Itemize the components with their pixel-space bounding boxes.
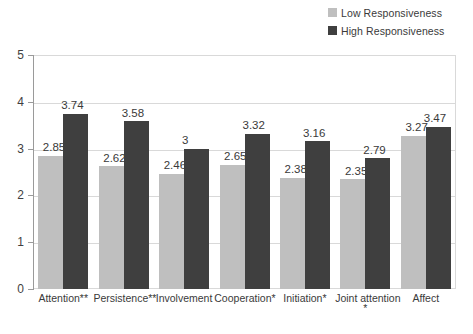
bar-low-responsiveness: 2.62 [99, 166, 124, 289]
legend-label-low-responsiveness: Low Responsiveness [341, 7, 442, 19]
bar-value-label: 3.32 [243, 120, 265, 134]
legend-label-high-responsiveness: High Responsiveness [341, 25, 444, 37]
bar-low-responsiveness: 2.35 [340, 179, 365, 289]
y-axis-tick-mark [28, 195, 33, 196]
legend-item-high-responsiveness: High Responsiveness [328, 22, 473, 39]
bar-value-label: 2.65 [224, 151, 246, 165]
bar-high-responsiveness: 3.16 [305, 141, 330, 289]
bar-high-responsiveness: 3.47 [426, 127, 451, 289]
bar-value-label: 2.35 [345, 166, 367, 180]
y-axis-tick-label: 0 [2, 282, 24, 296]
bar-group: 2.383.16 [280, 55, 330, 289]
y-axis-tick-labels: 543210 [0, 0, 24, 334]
y-axis-tick-label: 5 [2, 48, 24, 62]
bar-group: 2.853.74 [38, 55, 88, 289]
legend-swatch-low-responsiveness [328, 8, 337, 17]
bar-value-label: 2.62 [103, 153, 125, 167]
x-axis-label: Involvement [154, 292, 214, 304]
bar-chart: Low Responsiveness High Responsiveness 5… [0, 0, 473, 334]
bar-high-responsiveness: 3.74 [63, 114, 88, 289]
bar-value-label: 3.74 [61, 100, 83, 114]
chart-legend: Low Responsiveness High Responsiveness [328, 4, 473, 40]
bar-group: 2.352.79 [340, 55, 390, 289]
bar-low-responsiveness: 3.27 [401, 136, 426, 289]
bar-low-responsiveness: 2.65 [220, 165, 245, 289]
bar-value-label: 3.16 [303, 128, 325, 142]
x-axis-label: Initiation* [275, 292, 335, 304]
y-axis-tick-label: 3 [2, 142, 24, 156]
bar-low-responsiveness: 2.85 [38, 156, 63, 289]
y-axis-tick-label: 1 [2, 235, 24, 249]
bar-group: 2.463 [159, 55, 209, 289]
x-axis-label: Attention** [33, 292, 93, 304]
bar-value-label: 2.85 [43, 142, 65, 156]
bar-group: 2.653.32 [220, 55, 270, 289]
bar-group: 3.273.47 [401, 55, 451, 289]
legend-swatch-high-responsiveness [328, 26, 337, 35]
y-axis-tick-mark [28, 149, 33, 150]
bar-high-responsiveness: 3 [184, 149, 209, 289]
x-axis-label: Persistence** [93, 292, 153, 304]
x-axis-category-labels: Attention**Persistence**InvolvementCoope… [33, 292, 456, 334]
y-axis-tick-mark [28, 55, 33, 56]
bar-value-label: 3.58 [122, 108, 144, 122]
y-axis-tick-mark [28, 102, 33, 103]
bar-low-responsiveness: 2.46 [159, 174, 184, 289]
x-axis-label: Affect [396, 292, 456, 304]
y-axis-tick-mark [28, 289, 33, 290]
bar-value-label: 3.47 [424, 113, 446, 127]
x-axis-label-significance-mark: * [335, 304, 395, 312]
x-axis-label: Cooperation* [214, 292, 274, 304]
bar-value-label: 2.38 [285, 164, 307, 178]
bar-high-responsiveness: 2.79 [365, 158, 390, 289]
bar-value-label: 2.46 [164, 160, 186, 174]
x-axis-label: Joint attention* [335, 292, 395, 312]
y-axis-tick-label: 4 [2, 95, 24, 109]
bar-value-label: 2.79 [363, 145, 385, 159]
bars-layer: 2.853.742.623.582.4632.653.322.383.162.3… [33, 55, 456, 289]
bar-high-responsiveness: 3.58 [124, 121, 149, 289]
bar-group: 2.623.58 [99, 55, 149, 289]
y-axis-tick-mark [28, 242, 33, 243]
y-axis-tick-label: 2 [2, 188, 24, 202]
bar-high-responsiveness: 3.32 [245, 134, 270, 289]
legend-item-low-responsiveness: Low Responsiveness [328, 4, 473, 21]
bar-low-responsiveness: 2.38 [280, 178, 305, 289]
bar-value-label: 3 [182, 135, 188, 149]
